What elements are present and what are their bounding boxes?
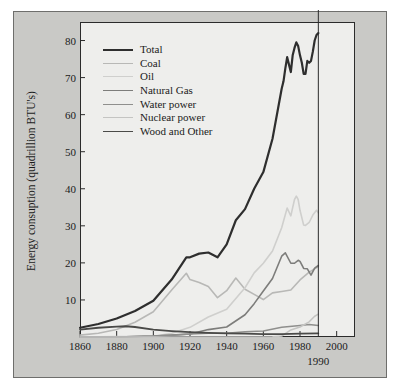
series-line: [80, 267, 318, 336]
y-tick-label: 60: [50, 109, 76, 121]
legend-swatch-icon: [103, 76, 133, 77]
legend-label: Total: [140, 44, 162, 55]
y-tick-label: 10: [50, 294, 76, 306]
legend-swatch-icon: [103, 49, 133, 51]
y-tick-label: 80: [50, 35, 76, 47]
series-line: [80, 196, 318, 337]
y-tick-label: 70: [50, 72, 76, 84]
legend-item: Nuclear power: [103, 111, 233, 125]
reference-year-label: 1990: [307, 355, 329, 367]
y-axis-ticks: 1020304050607080: [46, 22, 76, 337]
legend-swatch-icon: [103, 117, 133, 118]
chart-legend: TotalCoalOilNatural GasWater powerNuclea…: [103, 43, 233, 138]
legend-swatch-icon: [103, 90, 133, 91]
legend-swatch-icon: [103, 131, 133, 132]
y-tick-label: 50: [50, 146, 76, 158]
legend-swatch-icon: [103, 63, 133, 64]
legend-item: Natural Gas: [103, 84, 233, 98]
legend-label: Natural Gas: [140, 85, 193, 96]
y-tick-label: 40: [50, 183, 76, 195]
x-tick-label: 1860: [69, 340, 91, 352]
legend-item: Water power: [103, 97, 233, 111]
x-tick-label: 2000: [326, 340, 348, 352]
figure-container: Energy consuption (quadrillion BTU's) 10…: [0, 0, 400, 392]
legend-item: Wood and Other: [103, 125, 233, 139]
x-tick-label: 1920: [179, 340, 201, 352]
legend-item: Coal: [103, 57, 233, 71]
legend-item: Oil: [103, 70, 233, 84]
x-tick-label: 1960: [252, 340, 274, 352]
series-line: [80, 253, 318, 337]
x-tick-label: 1940: [216, 340, 238, 352]
x-tick-label: 1980: [289, 340, 311, 352]
y-axis-title: Energy consuption (quadrillion BTU's): [25, 91, 37, 271]
y-tick-label: 30: [50, 220, 76, 232]
y-axis-title-container: Energy consuption (quadrillion BTU's): [22, 23, 40, 338]
legend-item: Total: [103, 43, 233, 57]
legend-swatch-icon: [103, 104, 133, 105]
legend-label: Nuclear power: [140, 112, 205, 123]
legend-label: Wood and Other: [140, 126, 212, 137]
legend-label: Oil: [140, 71, 154, 82]
x-tick-label: 1900: [142, 340, 164, 352]
legend-label: Coal: [140, 58, 161, 69]
y-tick-label: 20: [50, 257, 76, 269]
x-tick-label: 1880: [106, 340, 128, 352]
legend-label: Water power: [140, 99, 196, 110]
